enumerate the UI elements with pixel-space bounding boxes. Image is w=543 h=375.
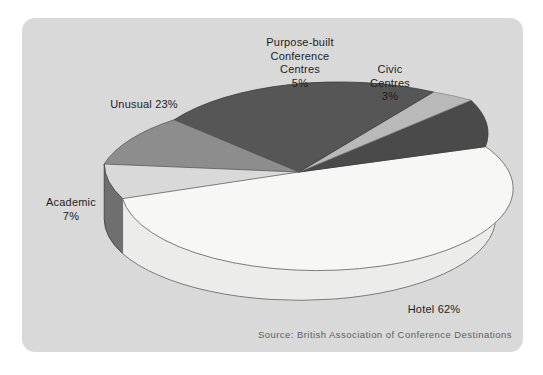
pie-label-purpose-built: Purpose-built Conference Centres 5%	[252, 36, 348, 90]
pie-label-civic-centres: Civic Centres 3%	[356, 63, 424, 104]
pie-label-hotel: Hotel 62%	[392, 303, 476, 317]
screenshot-root: Purpose-built Conference Centres 5% Civi…	[0, 0, 543, 375]
pie-label-academic: Academic 7%	[34, 196, 108, 223]
source-attribution: Source: British Association of Conferenc…	[246, 329, 512, 340]
pie-label-unusual: Unusual 23%	[96, 98, 192, 112]
